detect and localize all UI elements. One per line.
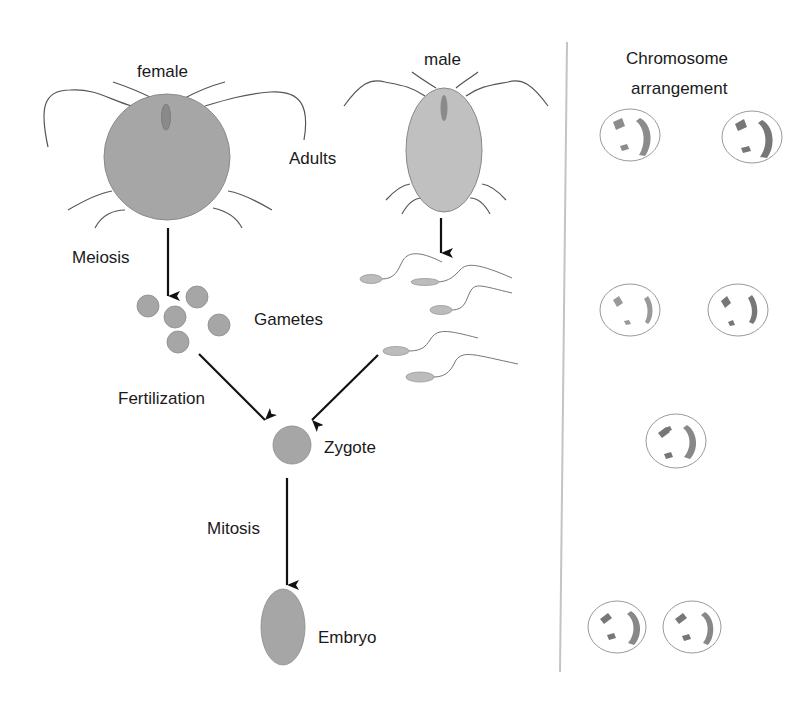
eye-icon — [441, 95, 448, 121]
chromosome-cell-gamete-female — [600, 284, 660, 336]
label-chromosome-title-line1: Chromosome — [626, 50, 728, 67]
chromosome-cell-zygote — [646, 414, 706, 468]
male-adult — [344, 72, 548, 214]
chromosome-cell-adult-female — [600, 109, 660, 161]
sperm-fertilization-arrow — [312, 355, 378, 420]
sperm-gametes — [360, 254, 518, 382]
chromosome-cell-gamete-male — [708, 284, 768, 336]
label-adults: Adults — [289, 150, 336, 167]
eye-icon — [162, 104, 171, 130]
divider-line — [560, 42, 567, 672]
egg-fertilization-arrow — [199, 354, 265, 420]
chromosome-cell-embryo-1 — [588, 601, 646, 653]
label-zygote: Zygote — [324, 439, 376, 456]
label-female: female — [137, 63, 188, 80]
label-chromosome-title-line2: arrangement — [631, 80, 727, 97]
chromosome-cell-adult-male — [722, 111, 782, 163]
egg-gametes — [137, 286, 230, 353]
chromosome-cell-embryo-2 — [663, 601, 721, 653]
female-adult — [44, 82, 306, 228]
label-meiosis: Meiosis — [72, 249, 130, 266]
label-mitosis: Mitosis — [207, 520, 260, 537]
embryo-cell — [261, 589, 305, 665]
life-cycle-diagram — [0, 0, 812, 706]
label-male: male — [424, 51, 461, 68]
label-fertilization: Fertilization — [118, 390, 205, 407]
label-embryo: Embryo — [318, 629, 377, 646]
label-gametes: Gametes — [254, 311, 323, 328]
zygote-cell — [273, 426, 311, 464]
